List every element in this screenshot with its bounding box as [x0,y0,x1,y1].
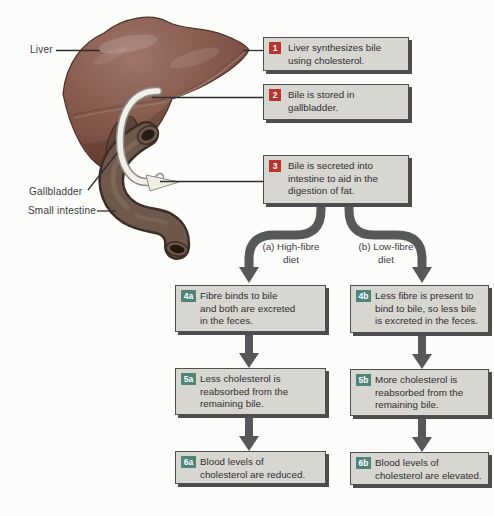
figure-canvas: Liver Gallbladder Small intestine 1 Live… [0,0,494,516]
step-box-4a: 4a Fibre binds to bile and both are excr… [175,285,326,332]
step-box-4b: 4b Less fibre is present to bind to bile… [350,285,489,333]
step-box-6b: 6b Blood levels of cholesterol are eleva… [350,452,489,485]
step-text-line: Less cholesterol is [200,373,322,386]
branch-left-arrowhead [239,267,259,283]
step-text-line: cholesterol are reduced. [200,469,322,482]
step-text-line: is excreted in the feces. [375,315,485,328]
step-text-line: digestion of fat. [288,185,405,198]
step-badge-3: 3 [269,160,281,172]
step-text-line: Blood levels of [375,457,485,470]
step-badge-1: 1 [269,42,281,54]
step-text-line: in the feces. [200,315,322,328]
step-box-5a: 5a Less cholesterol is reabsorbed from t… [175,368,326,415]
step-badge-2: 2 [269,89,281,101]
step-box-3: 3 Bile is secreted into intestine to aid… [263,155,409,204]
arrow-4a-5a-head [239,353,259,368]
step-badge-4b: 4b [356,290,371,302]
branch-label-high-fibre: (a) High-fibre diet [253,240,329,266]
step-text-line: Liver synthesizes bile [288,42,405,55]
step-text-line: intestine to aid in the [288,173,405,186]
arrow-4b-5b-head [412,354,432,369]
step-text-line: reabsorbed from the [200,386,322,399]
step-badge-5a: 5a [181,373,196,385]
step-badge-6b: 6b [356,457,371,469]
liver-label: Liver [30,44,53,55]
step-text-line: reabsorbed from the [375,387,485,400]
step-badge-4a: 4a [181,290,196,302]
step-text-line: using cholesterol. [288,55,405,68]
step-text-line: and both are excreted [200,303,322,316]
branch-label-low-fibre: (b) Low-fibre diet [347,240,425,266]
step-text-line: bind to bile, so less bile [375,303,485,316]
small-intestine-label: Small intestine [28,205,96,216]
arrow-5b-6b-head [412,437,432,452]
step-text-line: Blood levels of [200,456,322,469]
step-box-5b: 5b More cholesterol is reabsorbed from t… [350,369,489,416]
step-badge-6a: 6a [181,456,196,468]
step-text-line: gallbladder. [288,102,405,115]
step-text-line: Fibre binds to bile [200,290,322,303]
step-text-line: Bile is stored in [288,89,405,102]
step-box-1: 1 Liver synthesizes bile using cholester… [263,37,409,71]
step-text-line: More cholesterol is [375,374,485,387]
step-text-line: cholesterol are elevated. [375,470,485,483]
gallbladder-label: Gallbladder [29,186,82,197]
step-badge-5b: 5b [356,374,371,386]
arrow-5a-6a-head [239,436,259,451]
step-text-line: Less fibre is present to [375,290,485,303]
branch-right-arrowhead [412,267,432,283]
step-text-line: remaining bile. [375,399,485,412]
step-box-2: 2 Bile is stored in gallbladder. [263,84,409,120]
step-text-line: Bile is secreted into [288,160,405,173]
step-box-6a: 6a Blood levels of cholesterol are reduc… [175,451,326,484]
step-text-line: remaining bile. [200,398,322,411]
